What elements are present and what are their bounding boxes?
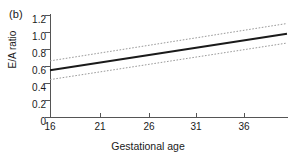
fitted-regression-line [50,34,287,71]
x-tick-marks [50,113,244,118]
lower-confidence-line [50,43,287,80]
upper-confidence-line [50,24,287,61]
y-tick-marks [45,15,50,117]
figure-panel-b: (b) E/A ratio Gestational age 1.2 1.0 0.… [0,0,296,160]
plot-area [0,0,296,160]
